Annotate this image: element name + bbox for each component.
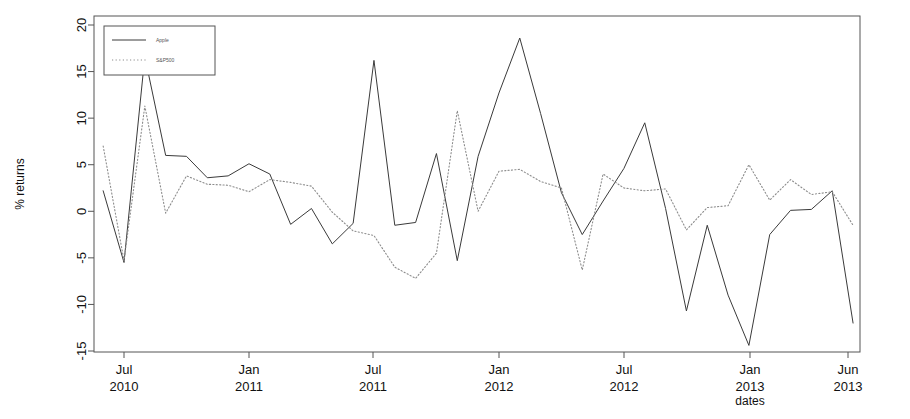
x-axis-title: dates <box>735 394 764 408</box>
x-tick-label-month: Jul <box>365 362 382 377</box>
x-tick-label-month: Jan <box>239 362 260 377</box>
y-tick-label: 0 <box>74 208 89 215</box>
y-tick-label: 5 <box>74 161 89 168</box>
x-tick-label-month: Jan <box>740 362 761 377</box>
y-tick-label: 15 <box>74 64 89 78</box>
x-tick-label-month: Jul <box>616 362 633 377</box>
x-tick-label-year: 2013 <box>834 379 863 394</box>
x-tick-label-year: 2012 <box>610 379 639 394</box>
x-tick-label-year: 2011 <box>235 379 263 394</box>
series-line-s-p500 <box>103 106 853 278</box>
y-tick-label: 10 <box>74 111 89 125</box>
x-tick-label-month: Jan <box>489 362 510 377</box>
returns-line-chart: -15-10-505101520Jul2010Jan2011Jul2011Jan… <box>0 0 910 419</box>
chart-container: -15-10-505101520Jul2010Jan2011Jul2011Jan… <box>0 0 910 419</box>
legend-label-s-p500: S&P500 <box>156 57 175 63</box>
legend-label-apple: Apple <box>156 37 169 43</box>
legend-box <box>104 26 215 75</box>
x-tick-label-year: 2013 <box>736 379 765 394</box>
y-tick-label: -15 <box>74 342 89 361</box>
x-tick-label-year: 2010 <box>110 379 139 394</box>
x-tick-label-month: Jul <box>116 362 133 377</box>
y-axis-title: % returns <box>13 158 27 209</box>
x-tick-label-year: 2011 <box>359 379 387 394</box>
x-tick-label-month: Jun <box>838 362 859 377</box>
y-tick-label: -10 <box>74 295 89 314</box>
x-tick-label-year: 2012 <box>485 379 514 394</box>
y-tick-label: -5 <box>74 252 89 264</box>
y-tick-label: 20 <box>74 18 89 32</box>
series-line-apple <box>103 38 853 345</box>
